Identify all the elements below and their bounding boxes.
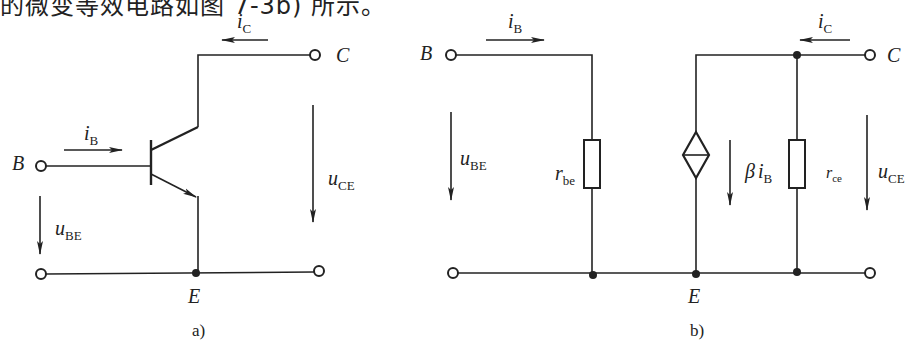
caption-b: b) bbox=[690, 321, 704, 340]
label-b: B bbox=[420, 42, 432, 64]
terminal-b bbox=[446, 50, 456, 60]
ib-label: iB bbox=[508, 10, 523, 36]
resistor-rce-icon bbox=[789, 140, 805, 188]
node-e bbox=[192, 269, 200, 277]
ic-label: iC bbox=[237, 10, 251, 36]
terminal-bottom-left bbox=[448, 268, 458, 278]
ib-label: iB bbox=[84, 122, 99, 148]
circuit-diagram: iC C B iB uBE uCE E a) B bbox=[0, 0, 913, 350]
label-c: C bbox=[336, 44, 350, 66]
terminal-bottom-right bbox=[865, 268, 875, 278]
label-b: B bbox=[12, 152, 24, 174]
ube-label: uBE bbox=[55, 217, 82, 243]
caption-a: a) bbox=[192, 321, 205, 340]
dependent-current-source-icon bbox=[683, 132, 709, 178]
source-top-wire bbox=[696, 55, 797, 132]
ube-label: uBE bbox=[460, 147, 487, 173]
npn-transistor-icon bbox=[151, 127, 198, 197]
figure-b-equivalent-circuit: B iB rbe uBE βiB C iC rce bbox=[420, 10, 905, 340]
rbe-label: rbe bbox=[555, 162, 575, 188]
terminal-bottom-right bbox=[314, 266, 324, 276]
terminal-c bbox=[310, 50, 320, 60]
base-wire bbox=[456, 55, 592, 140]
figure-a-transistor-circuit: iC C B iB uBE uCE E a) bbox=[12, 10, 355, 340]
terminal-c bbox=[865, 50, 875, 60]
node-e bbox=[692, 270, 700, 278]
node-rbe-ground bbox=[589, 271, 597, 279]
uce-label: uCE bbox=[328, 167, 355, 193]
label-c: C bbox=[887, 44, 901, 66]
label-e: E bbox=[687, 285, 700, 307]
terminal-b bbox=[36, 161, 46, 171]
node-rce-ground bbox=[793, 268, 801, 276]
rce-label: rce bbox=[826, 164, 842, 184]
ground-rail bbox=[46, 272, 314, 274]
ic-label: iC bbox=[818, 10, 832, 36]
label-e: E bbox=[187, 285, 200, 307]
resistor-rbe-icon bbox=[584, 140, 600, 188]
terminal-bottom-left bbox=[36, 269, 46, 279]
collector-wire bbox=[198, 55, 310, 127]
uce-label: uCE bbox=[878, 160, 905, 186]
source-label: βiB bbox=[744, 160, 773, 186]
